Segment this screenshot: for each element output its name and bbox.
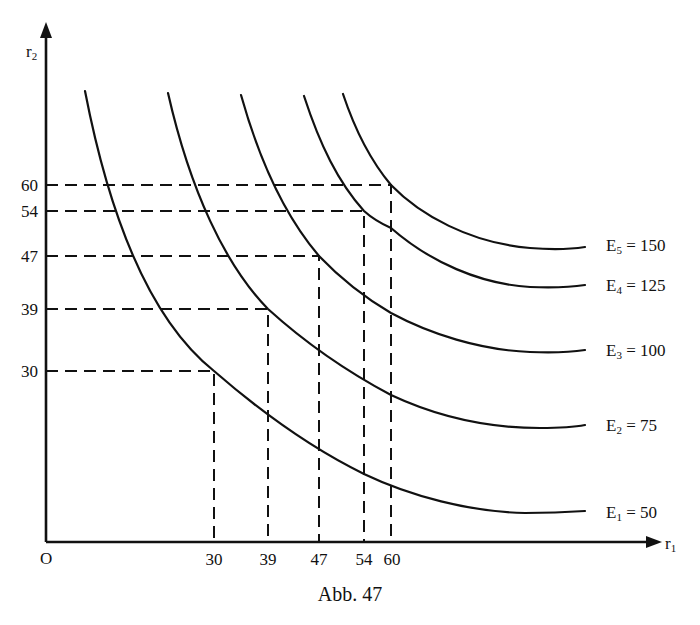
legend-e4-value: = 125 bbox=[622, 276, 666, 295]
projection-54 bbox=[46, 211, 364, 542]
curve-e1 bbox=[85, 91, 585, 513]
y-tick-60: 60 bbox=[2, 177, 38, 194]
x-tick-54: 54 bbox=[349, 551, 379, 568]
origin-label: O bbox=[40, 550, 52, 567]
y-tick-54: 54 bbox=[2, 203, 38, 220]
x-axis-label: r1 bbox=[665, 534, 676, 554]
curve-e5 bbox=[343, 94, 585, 249]
legend-e5-value: = 150 bbox=[622, 236, 666, 255]
projection-39 bbox=[46, 309, 268, 542]
x-axis-label-sub: 1 bbox=[671, 542, 677, 554]
curve-e3 bbox=[241, 95, 585, 352]
legend-e1: E1 = 50 bbox=[606, 503, 657, 523]
x-tick-30: 30 bbox=[199, 551, 229, 568]
y-axis-arrow-icon bbox=[40, 22, 52, 38]
y-tick-30: 30 bbox=[2, 363, 38, 380]
legend-e1-value: = 50 bbox=[622, 503, 657, 522]
x-tick-60: 60 bbox=[377, 551, 407, 568]
legend-e2: E2 = 75 bbox=[606, 416, 657, 436]
legend-e3-prefix: E bbox=[606, 341, 616, 360]
projection-47 bbox=[46, 256, 319, 542]
y-axis-label: r2 bbox=[26, 42, 37, 62]
legend-e5-prefix: E bbox=[606, 236, 616, 255]
x-axis-arrow-icon bbox=[646, 536, 662, 548]
legend-e4: E4 = 125 bbox=[606, 276, 665, 296]
curve-e2 bbox=[168, 93, 585, 428]
isoquant-chart bbox=[0, 0, 700, 625]
y-tick-39: 39 bbox=[2, 301, 38, 318]
legend-e2-value: = 75 bbox=[622, 416, 657, 435]
figure-caption: Abb. 47 bbox=[0, 583, 700, 606]
curve-e4 bbox=[304, 96, 585, 287]
x-tick-47: 47 bbox=[304, 551, 334, 568]
y-tick-47: 47 bbox=[2, 248, 38, 265]
legend-e3: E3 = 100 bbox=[606, 341, 665, 361]
legend-e3-value: = 100 bbox=[622, 341, 666, 360]
legend-e4-prefix: E bbox=[606, 276, 616, 295]
projection-30 bbox=[46, 371, 214, 542]
y-axis-label-sub: 2 bbox=[32, 50, 38, 62]
legend-e1-prefix: E bbox=[606, 503, 616, 522]
legend-e5: E5 = 150 bbox=[606, 236, 665, 256]
legend-e2-prefix: E bbox=[606, 416, 616, 435]
isoquant-curves bbox=[85, 91, 585, 513]
x-tick-39: 39 bbox=[253, 551, 283, 568]
